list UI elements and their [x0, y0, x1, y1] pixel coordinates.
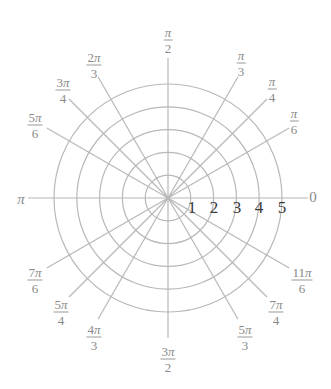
- angle-numerator: 5π: [53, 298, 68, 313]
- angle-numerator: 11π: [291, 266, 312, 281]
- angle-label-7pi-4: 7π4: [268, 298, 283, 327]
- ray-135deg: [69, 99, 168, 198]
- radius-label-1: 1: [188, 198, 197, 218]
- angle-label-11pi-6: 11π6: [291, 266, 312, 295]
- angle-numerator: 2π: [86, 51, 101, 66]
- angle-denominator: 3: [238, 64, 245, 78]
- ray-330deg: [168, 198, 289, 268]
- angle-numerator: π: [290, 107, 299, 122]
- angle-numerator: π: [268, 75, 277, 90]
- ray-210deg: [47, 198, 168, 268]
- ray-150deg: [47, 128, 168, 198]
- ray-45deg: [168, 99, 267, 198]
- angle-denominator: 4: [273, 313, 280, 327]
- angle-label-pi-2: π2: [164, 26, 173, 55]
- angle-label-3pi-4: 3π4: [55, 76, 70, 105]
- angle-numerator: 7π: [268, 298, 283, 313]
- angle-label-3pi-2: 3π2: [160, 345, 175, 374]
- angle-numerator: 3π: [55, 76, 70, 91]
- angle-label-pi-3: π3: [237, 49, 246, 78]
- angle-denominator: 6: [291, 122, 298, 136]
- angle-denominator: 3: [91, 66, 98, 80]
- angle-label-0: 0: [309, 191, 317, 204]
- angle-denominator: 4: [58, 313, 65, 327]
- radius-label-4: 4: [255, 198, 264, 218]
- angle-label-pi-4: π4: [268, 75, 277, 104]
- angle-denominator: 3: [242, 338, 249, 352]
- ray-120deg: [98, 77, 168, 198]
- angle-denominator: 2: [165, 41, 172, 55]
- angle-numerator: 5π: [237, 323, 252, 338]
- radius-label-5: 5: [278, 198, 287, 218]
- angle-numerator: 3π: [160, 345, 175, 360]
- polar-grid-diagram: 0π6π4π3π22π33π45π6π7π65π44π33π25π37π411π…: [0, 0, 331, 389]
- angle-numerator: π: [237, 49, 246, 64]
- ray-30deg: [168, 128, 289, 198]
- angle-denominator: 6: [32, 126, 39, 140]
- ray-300deg: [168, 198, 238, 319]
- angle-label-4pi-3: 4π3: [86, 323, 101, 352]
- angle-label-5pi-6: 5π6: [27, 111, 42, 140]
- angle-label-pi-6: π6: [290, 107, 299, 136]
- radius-label-2: 2: [210, 198, 219, 218]
- polar-grid: [0, 0, 331, 389]
- angle-denominator: 6: [299, 281, 306, 295]
- ray-240deg: [98, 198, 168, 319]
- angle-numerator: 7π: [27, 266, 42, 281]
- radius-label-3: 3: [233, 198, 242, 218]
- angle-denominator: 6: [32, 281, 39, 295]
- angle-label-pi: π: [17, 193, 25, 206]
- angle-label-2pi-3: 2π3: [86, 51, 101, 80]
- angle-numerator: 5π: [27, 111, 42, 126]
- angle-label-5pi-4: 5π4: [53, 298, 68, 327]
- angle-denominator: 4: [269, 90, 276, 104]
- angle-label-5pi-3: 5π3: [237, 323, 252, 352]
- angle-numerator: 4π: [86, 323, 101, 338]
- angle-label-7pi-6: 7π6: [27, 266, 42, 295]
- angle-numerator: π: [164, 26, 173, 41]
- ray-60deg: [168, 77, 238, 198]
- angle-denominator: 3: [91, 338, 98, 352]
- ray-225deg: [69, 198, 168, 297]
- angle-denominator: 2: [165, 360, 172, 374]
- angle-denominator: 4: [60, 91, 67, 105]
